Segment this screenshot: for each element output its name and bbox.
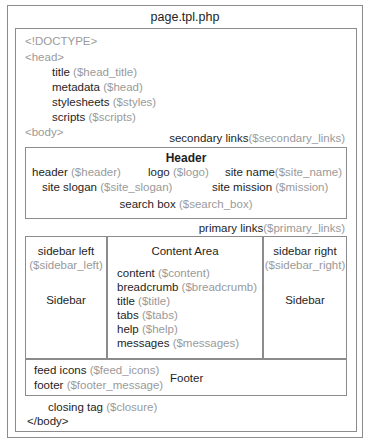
sidebar-left-label: sidebar left xyxy=(25,244,107,258)
item-label: help xyxy=(117,323,139,335)
head-item-title: title ($head_title) xyxy=(52,65,137,79)
sidebar-left-caption: Sidebar xyxy=(25,293,107,307)
item-var: ($scripts) xyxy=(88,111,135,123)
closing-tag-item: closing tag ($closure) xyxy=(48,400,157,414)
site-name-label: site name xyxy=(225,166,275,178)
primary-links-label: primary links xyxy=(199,222,264,234)
sidebar-right-label: sidebar right xyxy=(263,244,347,258)
body-close-tag: </body> xyxy=(27,414,69,428)
logo-var: ($logo) xyxy=(173,166,209,178)
primary-links-var: ($primary_links) xyxy=(263,222,345,234)
header-title: Header xyxy=(25,151,347,165)
body-tag: <body> xyxy=(25,125,63,139)
header-row-1: header ($header) xyxy=(32,165,121,179)
item-var: ($messages) xyxy=(173,337,239,349)
header-var-var: ($header) xyxy=(71,166,121,178)
item-var: ($footer_message) xyxy=(67,379,164,391)
item-label: scripts xyxy=(52,111,85,123)
item-var: ($help) xyxy=(142,323,178,335)
secondary-links-var: ($secondary_links) xyxy=(248,132,345,144)
head-item-scripts: scripts ($scripts) xyxy=(52,110,136,124)
head-item-stylesheets: stylesheets ($styles) xyxy=(52,95,156,109)
content-item-breadcrumb: breadcrumb ($breadcrumb) xyxy=(117,280,257,294)
sidebar-right-var: ($sidebar_right) xyxy=(263,258,347,272)
content-item-help: help ($help) xyxy=(117,322,178,336)
item-label: tabs xyxy=(117,309,139,321)
item-label: feed icons xyxy=(34,364,86,376)
content-item-title: title ($title) xyxy=(117,294,170,308)
footer-item-feed-icons: feed icons ($feed_icons) xyxy=(34,363,159,377)
diagram-title: page.tpl.php xyxy=(7,10,363,24)
site-name-var: ($site_name) xyxy=(275,166,342,178)
logo-label: logo xyxy=(148,166,170,178)
item-label: title xyxy=(117,295,135,307)
content-item-content: content ($content) xyxy=(117,266,210,280)
content-item-messages: messages ($messages) xyxy=(117,336,239,350)
item-label: footer xyxy=(34,379,63,391)
content-item-tabs: tabs ($tabs) xyxy=(117,308,178,322)
site-mission-var: ($mission) xyxy=(275,181,328,193)
item-var: ($feed_icons) xyxy=(90,364,160,376)
head-tag: <head> xyxy=(25,50,64,64)
closing-tag-label: closing tag xyxy=(48,401,103,413)
closing-tag-var: ($closure) xyxy=(106,401,157,413)
item-var: ($breadcrumb) xyxy=(182,281,257,293)
sidebar-left-var: ($sidebar_left) xyxy=(25,258,107,272)
footer-caption: Footer xyxy=(170,371,203,385)
sidebar-right-caption: Sidebar xyxy=(263,293,347,307)
site-mission-label: site mission xyxy=(212,181,272,193)
doctype-tag: <!DOCTYPE> xyxy=(25,34,97,48)
content-area-title: Content Area xyxy=(107,244,263,258)
item-label: stylesheets xyxy=(52,96,110,108)
item-var: ($head_title) xyxy=(73,66,137,78)
logo-item: logo ($logo) xyxy=(148,165,209,179)
item-label: content xyxy=(117,267,155,279)
item-var: ($head) xyxy=(103,81,143,93)
header-var-label: header xyxy=(32,166,68,178)
item-label: messages xyxy=(117,337,169,349)
site-slogan-var: ($site_slogan) xyxy=(100,181,172,193)
item-var: ($title) xyxy=(138,295,170,307)
primary-links: primary links($primary_links) xyxy=(199,221,345,235)
item-label: title xyxy=(52,66,70,78)
search-box-var: ($search_box) xyxy=(179,198,253,210)
secondary-links-label: secondary links xyxy=(169,132,248,144)
item-label: metadata xyxy=(52,81,100,93)
search-box-item: search box ($search_box) xyxy=(25,197,347,211)
site-mission-item: site mission ($mission) xyxy=(212,180,328,194)
site-slogan-label: site slogan xyxy=(42,181,97,193)
item-label: breadcrumb xyxy=(117,281,178,293)
item-var: ($styles) xyxy=(113,96,156,108)
secondary-links: secondary links($secondary_links) xyxy=(169,131,345,145)
site-slogan-item: site slogan ($site_slogan) xyxy=(42,180,172,194)
site-name-item: site name($site_name) xyxy=(225,165,342,179)
item-var: ($content) xyxy=(158,267,210,279)
search-box-label: search box xyxy=(120,198,176,210)
head-item-metadata: metadata ($head) xyxy=(52,80,143,94)
item-var: ($tabs) xyxy=(142,309,178,321)
footer-item-footer: footer ($footer_message) xyxy=(34,378,163,392)
